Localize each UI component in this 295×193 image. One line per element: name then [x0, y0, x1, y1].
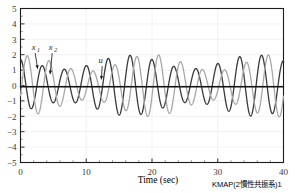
y-tick-label: 4 — [12, 19, 17, 29]
y-tick-label: 1 — [12, 65, 17, 75]
y-tick-label: 0 — [12, 81, 17, 91]
y-tick-label: 2 — [12, 50, 17, 60]
annotation-arrowhead-u — [100, 76, 103, 79]
x-tick-label: 0 — [18, 167, 23, 177]
x-tick-label: 10 — [82, 167, 92, 177]
x-tick-label: 20 — [148, 167, 158, 177]
curve-label-sub-x2: 2 — [54, 47, 57, 53]
annotation-arrowhead-x1 — [35, 65, 38, 69]
y-tick-label: 5 — [12, 4, 17, 14]
chart-canvas: 543210−1−2−3−4−5 010203040 x1x2u — [0, 0, 295, 193]
chart-root: 543210−1−2−3−4−5 010203040 x1x2u Time (s… — [0, 0, 295, 193]
x-axis-ticks: 010203040 — [18, 159, 288, 177]
y-tick-label: −2 — [7, 112, 17, 122]
y-tick-label: −4 — [7, 142, 17, 152]
curve-label-x1: x — [31, 42, 36, 52]
y-tick-label: −5 — [7, 158, 17, 168]
gridlines — [21, 9, 284, 163]
y-tick-label: −3 — [7, 127, 17, 137]
curve-label-u: u — [99, 55, 103, 65]
curve-label-sub-x1: 1 — [37, 47, 40, 53]
y-tick-label: 3 — [12, 35, 17, 45]
x-tick-label: 40 — [279, 167, 289, 177]
x-tick-label: 30 — [213, 167, 223, 177]
y-tick-label: −1 — [7, 96, 17, 106]
curve-label-x2: x — [48, 42, 53, 52]
